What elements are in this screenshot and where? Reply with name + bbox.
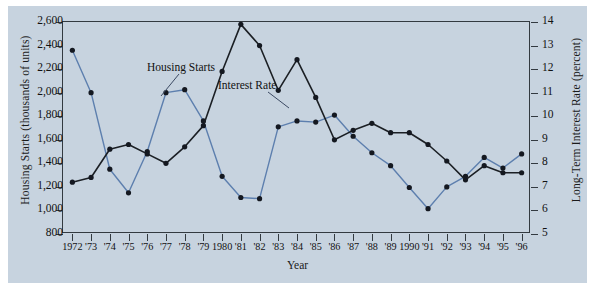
data-point (88, 90, 93, 95)
x-tick (503, 234, 504, 241)
x-tick (372, 234, 373, 241)
data-point (294, 118, 299, 123)
data-point (163, 161, 168, 166)
x-tick-label: '73 (85, 241, 97, 252)
x-tick-label: '91 (422, 241, 434, 252)
x-tick (316, 234, 317, 241)
x-tick (260, 234, 261, 241)
x-tick (334, 234, 335, 241)
x-tick (72, 234, 73, 241)
y-tick-label-left: 2,000 (37, 85, 63, 97)
data-point (220, 69, 225, 74)
y-tick-label-right: 9 (542, 132, 548, 144)
data-point (257, 43, 262, 48)
data-point (369, 121, 374, 126)
data-point (519, 170, 524, 175)
y-tick-label-right: 8 (542, 155, 548, 167)
x-tick-label: '86 (328, 241, 340, 252)
data-point (238, 22, 243, 27)
data-point (500, 165, 505, 170)
y-tick-label-right: 5 (542, 226, 548, 238)
x-tick-label: '82 (254, 241, 266, 252)
x-tick-label: 1990 (399, 241, 419, 252)
data-point (182, 87, 187, 92)
x-tick-label: '95 (497, 241, 509, 252)
x-tick-label: '85 (310, 241, 322, 252)
data-point (238, 195, 243, 200)
x-tick (447, 234, 448, 241)
data-point (70, 180, 75, 185)
data-point (313, 95, 318, 100)
x-tick (353, 234, 354, 241)
x-tick-label: '84 (291, 241, 303, 252)
x-tick-label: '89 (385, 241, 397, 252)
series-lines (63, 22, 531, 234)
y-tick-right (531, 46, 538, 47)
data-point (201, 123, 206, 128)
x-tick-label: '83 (272, 241, 284, 252)
x-tick-label: 1980 (212, 241, 232, 252)
data-point (126, 142, 131, 147)
x-tick-label: '77 (160, 241, 172, 252)
x-tick (465, 234, 466, 241)
x-tick (241, 234, 242, 241)
data-point (407, 130, 412, 135)
data-point (463, 177, 468, 182)
y-tick-right (531, 187, 538, 188)
y-tick-right (531, 69, 538, 70)
x-tick-label: '78 (179, 241, 191, 252)
data-point (332, 112, 337, 117)
x-tick (278, 234, 279, 241)
x-tick (484, 234, 485, 241)
x-tick-label: 1972 (62, 241, 82, 252)
x-tick (166, 234, 167, 241)
y-tick-label-left: 1,000 (37, 202, 63, 214)
x-tick-label: '92 (441, 241, 453, 252)
data-point (351, 128, 356, 133)
plot-area: 8001,0001,2001,4001,6001,8002,0002,2002,… (62, 21, 530, 233)
x-tick (428, 234, 429, 241)
x-axis-title: Year (8, 259, 587, 271)
data-point (126, 190, 131, 195)
x-tick-label: '81 (235, 241, 247, 252)
x-tick (203, 234, 204, 241)
figure-canvas: Housing Starts (thousands of units) Long… (8, 6, 587, 283)
x-tick-label: '76 (141, 241, 153, 252)
y-tick-right (531, 140, 538, 141)
data-point (220, 174, 225, 179)
y-tick-right (531, 93, 538, 94)
y-tick-label-left: 1,200 (37, 179, 63, 191)
x-tick (91, 234, 92, 241)
y-tick-label-right: 10 (542, 108, 554, 120)
x-tick (110, 234, 111, 241)
y-tick-label-left: 800 (46, 226, 63, 238)
x-tick (129, 234, 130, 241)
y-tick-label-right: 11 (542, 85, 553, 97)
data-point (425, 142, 430, 147)
y-tick-label-left: 2,400 (37, 38, 63, 50)
y-tick-right (531, 116, 538, 117)
y-tick-label-left: 2,600 (37, 14, 63, 26)
data-point (369, 150, 374, 155)
x-tick (147, 234, 148, 241)
data-point (107, 167, 112, 172)
series-line (72, 24, 521, 182)
data-point (294, 57, 299, 62)
x-tick (409, 234, 410, 241)
data-point (444, 158, 449, 163)
x-tick-label: '74 (104, 241, 116, 252)
y-tick-label-left: 1,600 (37, 132, 63, 144)
x-tick-label: '75 (123, 241, 135, 252)
x-tick (522, 234, 523, 241)
x-tick-label: '79 (197, 241, 209, 252)
data-point (276, 124, 281, 129)
data-point (482, 155, 487, 160)
data-point (313, 120, 318, 125)
annotation-interest-rate: Interest Rate (218, 79, 276, 91)
series-interest-rate (70, 22, 524, 185)
y-tick-right (531, 210, 538, 211)
x-tick (297, 234, 298, 241)
annotation-housing-starts: Housing Starts (147, 61, 215, 73)
y-tick-right (531, 163, 538, 164)
data-point (257, 196, 262, 201)
